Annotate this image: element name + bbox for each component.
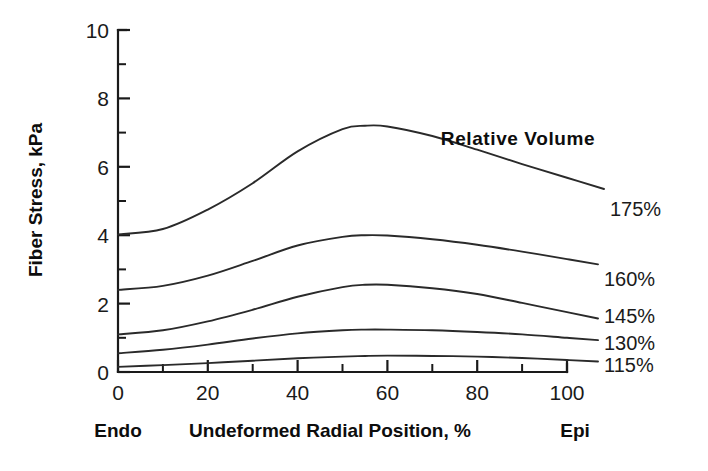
x-tick-label-60: 60 bbox=[376, 381, 399, 404]
endo-label: Endo bbox=[94, 420, 142, 441]
series-labels: 175% 160% 145% 130% 115% bbox=[604, 198, 661, 376]
series-label-115: 115% bbox=[604, 354, 654, 376]
chart-canvas: 0 2 4 6 8 10 0 20 40 60 80 100 175% 160%… bbox=[0, 0, 708, 471]
chart-figure: 0 2 4 6 8 10 0 20 40 60 80 100 175% 160%… bbox=[0, 0, 708, 471]
y-tick-label-2: 2 bbox=[97, 293, 109, 316]
x-tick-label-20: 20 bbox=[196, 381, 219, 404]
x-tick-label-100: 100 bbox=[549, 381, 584, 404]
y-tick-label-4: 4 bbox=[97, 224, 109, 247]
curve-130 bbox=[118, 330, 598, 354]
curve-115 bbox=[118, 356, 598, 367]
y-axis-title: Fiber Stress, kPa bbox=[25, 122, 46, 277]
series-label-160: 160% bbox=[604, 268, 655, 290]
y-tick-label-6: 6 bbox=[97, 156, 109, 179]
x-axis-title: Undeformed Radial Position, % bbox=[189, 420, 471, 441]
y-tick-labels: 0 2 4 6 8 10 bbox=[86, 19, 110, 384]
y-tick-label-10: 10 bbox=[86, 19, 109, 42]
axis-group bbox=[118, 30, 567, 372]
x-tick-label-0: 0 bbox=[112, 381, 124, 404]
x-tick-marks-minor bbox=[163, 364, 522, 372]
curve-160 bbox=[118, 235, 598, 290]
legend-title: Relative Volume bbox=[441, 128, 595, 149]
series-label-130: 130% bbox=[604, 332, 655, 354]
curve-145 bbox=[118, 284, 598, 334]
epi-label: Epi bbox=[560, 420, 590, 441]
y-tick-label-0: 0 bbox=[97, 361, 109, 384]
x-tick-label-40: 40 bbox=[286, 381, 309, 404]
x-tick-labels: 0 20 40 60 80 100 bbox=[112, 381, 584, 404]
x-tick-label-80: 80 bbox=[466, 381, 489, 404]
series-label-145: 145% bbox=[604, 305, 655, 327]
y-tick-label-8: 8 bbox=[97, 87, 109, 110]
y-tick-marks-minor bbox=[118, 64, 126, 338]
series-label-175: 175% bbox=[610, 198, 661, 220]
series-curves bbox=[118, 125, 604, 367]
